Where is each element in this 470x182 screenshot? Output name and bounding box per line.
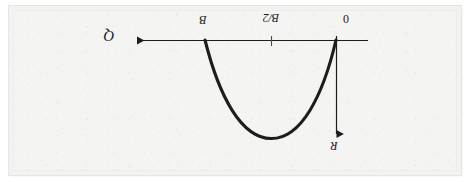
figure-root: Q B B/2 0 R <box>0 0 470 182</box>
tick-label-b-half: B/2 <box>255 12 287 24</box>
axis-label-r: R <box>325 140 343 152</box>
plot-canvas <box>0 0 470 182</box>
axis-label-q: Q <box>98 28 120 43</box>
tick-label-b: B <box>193 14 213 26</box>
tick-label-origin: 0 <box>338 13 354 25</box>
parabola-curve <box>205 40 336 139</box>
